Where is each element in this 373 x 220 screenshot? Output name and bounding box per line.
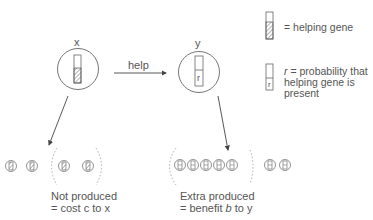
- legend-r-mark: r: [268, 79, 271, 91]
- dashed-bracket-left: [52, 148, 58, 185]
- label-y: y: [195, 37, 201, 49]
- caption-y: Extra produced = benefit b to y: [180, 190, 255, 214]
- label-x: x: [74, 36, 80, 48]
- legend-probability-text: r = probability that helping gene is pre…: [284, 66, 368, 99]
- help-label: help: [128, 59, 149, 71]
- gene-mark-y: r: [197, 72, 200, 84]
- arrow-y-offspring: [218, 96, 228, 150]
- legend-helping-gene-icon: [266, 12, 273, 39]
- caption-x: Not produced = cost c to x: [51, 190, 117, 214]
- arrow-x-offspring: [49, 96, 68, 145]
- dashed-bracket-right: [96, 148, 102, 185]
- offspring-x-group: [6, 148, 102, 185]
- helping-gene-x: [74, 68, 81, 83]
- legend-helping-gene-text: = helping gene: [284, 22, 353, 33]
- diagram-canvas: [0, 0, 373, 220]
- offspring-y-group: [170, 148, 291, 185]
- individual-x: [58, 49, 99, 90]
